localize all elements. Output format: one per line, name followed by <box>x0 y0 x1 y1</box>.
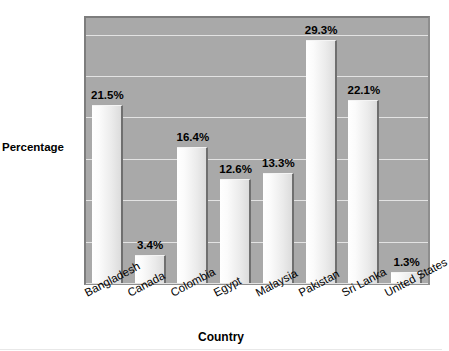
x-axis-title: Country <box>0 330 442 344</box>
bar[interactable] <box>177 147 208 283</box>
bottom-divider <box>0 349 442 350</box>
bar-value-label: 29.3% <box>291 25 351 37</box>
plot-area: 21.5%3.4%16.4%12.6%13.3%29.3%22.1%1.3% <box>84 16 430 285</box>
bar[interactable] <box>306 40 337 283</box>
bar[interactable] <box>92 105 123 283</box>
bar[interactable] <box>220 179 251 283</box>
gridline <box>86 76 428 77</box>
bar[interactable] <box>263 173 294 283</box>
bar[interactable] <box>348 100 379 283</box>
gridline <box>86 35 428 36</box>
bar-value-label: 3.4% <box>120 240 180 252</box>
plot-inner: 21.5%3.4%16.4%12.6%13.3%29.3%22.1%1.3% <box>86 18 428 283</box>
y-axis-title: Percentage <box>2 141 80 153</box>
bar-value-label: 16.4% <box>163 132 223 144</box>
bar-value-label: 13.3% <box>248 158 308 170</box>
bar-value-label: 21.5% <box>77 90 137 102</box>
bar-value-label: 22.1% <box>334 85 394 97</box>
